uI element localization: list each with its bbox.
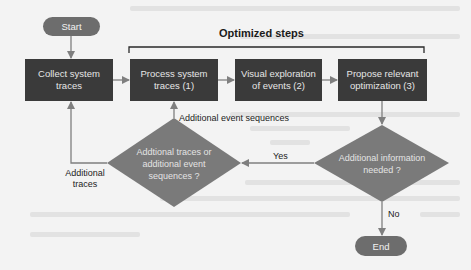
edge-label-additional-event-sequences: Additional event sequences — [179, 113, 289, 124]
step-visual-exploration: Visual exploration of events (2) — [235, 59, 322, 101]
optimized-steps-title: Optimized steps — [219, 27, 304, 39]
edge-label-no: No — [388, 209, 400, 220]
decision-traces-label: Addtional traces or additional event seq… — [130, 146, 218, 182]
step-propose-optimization: Propose relevant optimization (3) — [338, 59, 427, 101]
edge-label-yes: Yes — [273, 151, 288, 162]
edge-label-additional-traces: Additional traces — [60, 168, 110, 190]
start-node: Start — [43, 17, 100, 36]
step-collect-traces: Collect system traces — [25, 59, 113, 101]
optimized-steps-bracket — [129, 47, 424, 53]
flow-connectors — [0, 0, 471, 270]
end-node: End — [355, 236, 407, 256]
step-process-traces: Process system traces (1) — [130, 59, 218, 101]
decision-info-label: Additional information needed ? — [333, 152, 431, 176]
